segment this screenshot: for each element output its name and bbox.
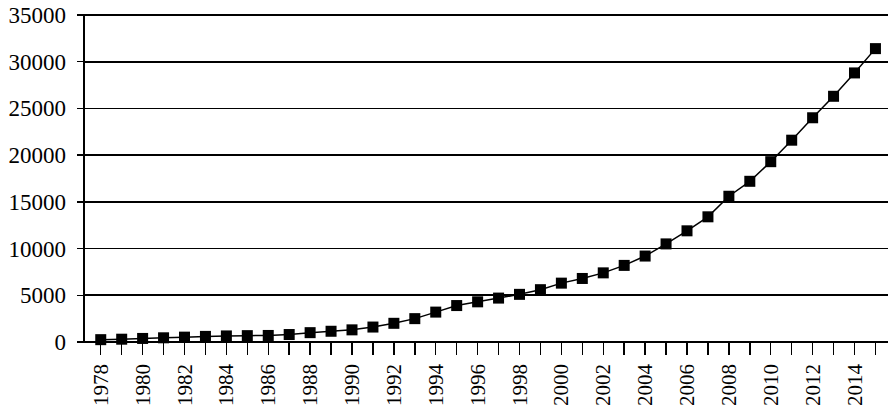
chart-container: 05000100001500020000250003000035000 1978… bbox=[0, 0, 888, 413]
y-axis-tick-label: 0 bbox=[55, 330, 67, 355]
data-point-marker bbox=[744, 176, 755, 187]
data-point-marker bbox=[493, 293, 504, 304]
data-point-marker bbox=[409, 313, 420, 324]
x-axis-tick-label: 2008 bbox=[717, 364, 741, 406]
data-point-marker bbox=[765, 156, 776, 167]
x-axis-tick-label: 2004 bbox=[633, 364, 657, 407]
y-axis-tick-label: 5000 bbox=[20, 283, 66, 308]
gridlines bbox=[84, 15, 888, 295]
data-point-marker bbox=[200, 331, 211, 342]
data-point-marker bbox=[702, 211, 713, 222]
data-point-marker bbox=[430, 307, 441, 318]
data-point-marker bbox=[451, 300, 462, 311]
data-point-marker bbox=[619, 260, 630, 271]
data-point-marker bbox=[263, 330, 274, 341]
x-axis-tick-label: 2012 bbox=[801, 364, 825, 406]
data-point-marker bbox=[786, 135, 797, 146]
x-axis-tick-label: 2010 bbox=[759, 364, 783, 406]
x-axis-tick-marks bbox=[101, 342, 876, 355]
data-point-marker bbox=[116, 334, 127, 345]
data-point-marker bbox=[284, 329, 295, 340]
data-point-marker bbox=[221, 330, 232, 341]
y-axis-tick-label: 15000 bbox=[9, 190, 67, 215]
y-axis-tick-label: 20000 bbox=[9, 143, 67, 168]
x-axis-tick-label: 1980 bbox=[131, 364, 155, 406]
y-axis-tick-label: 35000 bbox=[9, 3, 67, 28]
data-point-marker bbox=[682, 225, 693, 236]
data-point-marker bbox=[179, 332, 190, 343]
data-point-marker bbox=[870, 43, 881, 54]
x-axis-tick-label: 1978 bbox=[89, 364, 113, 406]
x-axis-tick-label: 1982 bbox=[173, 364, 197, 406]
data-point-marker bbox=[95, 334, 106, 345]
data-point-marker bbox=[661, 238, 672, 249]
x-axis-tick-label: 2014 bbox=[843, 364, 867, 407]
data-point-marker bbox=[472, 296, 483, 307]
x-axis-tick-label: 1994 bbox=[424, 364, 448, 407]
x-axis-tick-label: 2002 bbox=[591, 364, 615, 406]
data-point-marker bbox=[807, 112, 818, 123]
x-axis-tick-label: 2006 bbox=[675, 364, 699, 406]
x-axis-tick-labels: 1978198019821984198619881990199219941996… bbox=[89, 364, 867, 407]
x-axis-tick-label: 1998 bbox=[508, 364, 532, 406]
x-axis-tick-label: 1988 bbox=[298, 364, 322, 406]
x-axis-tick-label: 2000 bbox=[549, 364, 573, 406]
data-point-marker bbox=[640, 251, 651, 262]
data-point-marker bbox=[367, 322, 378, 333]
data-point-marker bbox=[305, 327, 316, 338]
data-point-marker bbox=[849, 67, 860, 78]
x-axis-tick-label: 1990 bbox=[340, 364, 364, 406]
data-point-marker bbox=[242, 330, 253, 341]
data-point-marker bbox=[388, 318, 399, 329]
y-axis-tick-label: 25000 bbox=[9, 96, 67, 121]
data-point-marker bbox=[723, 191, 734, 202]
data-point-marker bbox=[347, 324, 358, 335]
y-axis-tick-labels: 05000100001500020000250003000035000 bbox=[9, 3, 67, 355]
y-axis-tick-label: 10000 bbox=[9, 237, 67, 262]
x-axis-tick-label: 1996 bbox=[466, 364, 490, 406]
data-point-marker bbox=[158, 332, 169, 343]
x-axis-tick-label: 1992 bbox=[382, 364, 406, 406]
y-axis-tick-label: 30000 bbox=[9, 50, 67, 75]
data-point-marker bbox=[828, 91, 839, 102]
data-point-marker bbox=[326, 326, 337, 337]
data-point-marker bbox=[535, 284, 546, 295]
x-axis-tick-label: 1984 bbox=[214, 364, 238, 407]
data-point-marker bbox=[137, 333, 148, 344]
data-point-marker bbox=[556, 278, 567, 289]
x-axis-tick-label: 1986 bbox=[256, 364, 280, 406]
data-point-marker bbox=[514, 289, 525, 300]
data-point-marker bbox=[577, 273, 588, 284]
line-chart: 05000100001500020000250003000035000 1978… bbox=[0, 0, 888, 413]
data-point-marker bbox=[598, 267, 609, 278]
